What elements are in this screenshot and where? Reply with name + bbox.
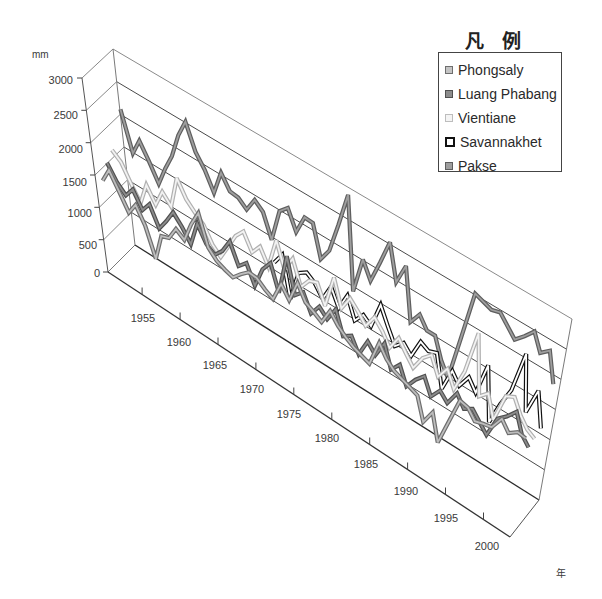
series-line [112, 150, 535, 439]
y-axis-unit-label: mm [32, 49, 49, 60]
y-tick-label: 1500 [63, 176, 87, 188]
legend: Phongsaly Luang Phabang Vientiane Savann… [438, 52, 562, 172]
series-phongsaly [103, 170, 526, 442]
floor-right-edge [510, 500, 539, 537]
series-vientiane [112, 150, 535, 439]
y-tick-label: 2500 [54, 109, 78, 121]
legend-item-vientiane: Vientiane [439, 106, 561, 130]
x-tick-label: 1995 [434, 512, 458, 524]
back-right-edge [539, 319, 572, 500]
x-tick-label: 1960 [167, 336, 191, 348]
legend-title: 凡例 [452, 26, 552, 53]
y-tick-label: 1000 [68, 207, 92, 219]
x-tick-label: 1975 [277, 408, 301, 420]
x-tick-label: 1955 [131, 312, 155, 324]
legend-swatch-icon [445, 66, 453, 74]
y-tick-label: 500 [79, 239, 97, 251]
legend-item-luang-phabang: Luang Phabang [439, 82, 561, 106]
legend-item-savannakhet: Savannakhet [439, 130, 561, 154]
x-tick-label: 1990 [394, 485, 418, 497]
y-tick-label: 2000 [59, 143, 83, 155]
x-tick-label: 1970 [240, 383, 264, 395]
y-tick-label: 0 [94, 267, 100, 279]
legend-label: Vientiane [458, 110, 516, 126]
legend-swatch-icon [445, 137, 455, 147]
floor-left-edge [108, 245, 135, 272]
legend-label: Phongsaly [458, 62, 523, 78]
y-tick-label: 3000 [49, 74, 73, 86]
series-line [103, 170, 526, 442]
legend-item-pakse: Pakse [439, 154, 561, 178]
x-tick-label: 2000 [475, 540, 499, 552]
side-wall-gridline [91, 114, 121, 142]
side-wall-gridline [82, 49, 113, 78]
legend-label: Pakse [458, 158, 497, 174]
legend-swatch-icon [445, 114, 453, 122]
side-wall-gridline [86, 82, 116, 111]
legend-swatch-icon [445, 162, 453, 170]
x-tick-label: 1985 [354, 458, 378, 470]
side-wall-gridline [104, 212, 132, 239]
legend-swatch-icon [445, 90, 453, 98]
x-tick-label: 1965 [203, 359, 227, 371]
legend-label: Luang Phabang [458, 86, 557, 102]
x-tick-label: 1980 [315, 432, 339, 444]
legend-label: Savannakhet [460, 134, 542, 150]
x-axis-unit-label: 年 [556, 567, 566, 579]
legend-item-phongsaly: Phongsaly [439, 58, 561, 82]
